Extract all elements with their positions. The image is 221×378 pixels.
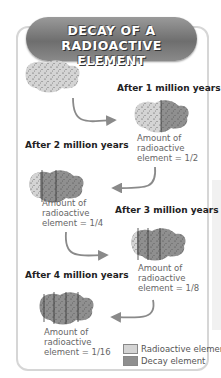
stage-label-4: After 4 million years: [25, 270, 129, 280]
stage-label-1: After 1 million years: [117, 83, 221, 93]
arrow-3: [66, 232, 107, 255]
decay-swatch-icon: [123, 356, 138, 366]
arrow-1: [73, 98, 115, 121]
arrow-4: [112, 300, 154, 318]
legend-item-decay: Decay element: [123, 355, 221, 366]
legend: Radioactive element Decay element: [123, 343, 221, 367]
stage-amount-1: Amount of radioactive element = 1/2: [137, 133, 198, 163]
rock-3-million: [130, 226, 186, 266]
diagram-graphics: [0, 0, 221, 378]
stage-label-3: After 3 million years: [115, 205, 219, 215]
stage-label-2: After 2 million years: [25, 140, 129, 150]
arrow-2: [113, 167, 155, 188]
stage-amount-2: Amount of radioactive element = 1/4: [42, 198, 103, 228]
rock-initial: [25, 60, 79, 92]
radioactive-swatch-icon: [123, 344, 138, 354]
stage-amount-4: Amount of radioactive element = 1/16: [44, 327, 111, 357]
rock-4-million: [39, 292, 93, 325]
legend-item-radioactive: Radioactive element: [123, 343, 221, 354]
rock-1-million: [134, 98, 193, 138]
stage-amount-3: Amount of radioactive element = 1/8: [138, 263, 199, 293]
